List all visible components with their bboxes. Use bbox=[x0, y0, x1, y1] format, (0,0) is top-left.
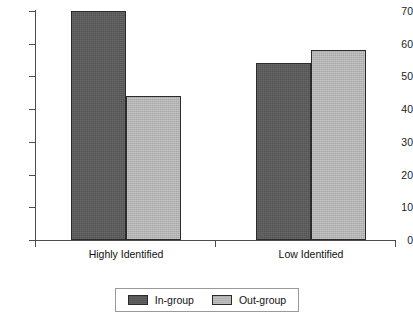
x-axis-tick-end bbox=[395, 241, 396, 247]
legend-swatch-icon bbox=[128, 295, 148, 305]
legend-item-out-group: Out-group bbox=[212, 295, 286, 306]
x-axis-tick-middle bbox=[215, 241, 216, 247]
x-axis-category-label: Low Identified bbox=[279, 249, 344, 261]
x-axis-category-label: Highly Identified bbox=[89, 249, 164, 261]
legend-item-label: Out-group bbox=[239, 295, 286, 306]
legend-item-in-group: In-group bbox=[128, 295, 194, 306]
legend-swatch-icon bbox=[212, 295, 232, 305]
bar-chart-figure: 010203040506070 Highly IdentifiedLow Ide… bbox=[0, 0, 413, 320]
bar-out-group-low-identified bbox=[311, 50, 366, 240]
x-axis-tick-start bbox=[35, 241, 36, 247]
chart-legend: In-groupOut-group bbox=[115, 288, 299, 312]
bar-in-group-highly-identified bbox=[71, 11, 126, 240]
legend-item-label: In-group bbox=[155, 295, 194, 306]
plot-area bbox=[35, 11, 395, 240]
bar-in-group-low-identified bbox=[256, 63, 311, 240]
bar-out-group-highly-identified bbox=[126, 96, 181, 240]
